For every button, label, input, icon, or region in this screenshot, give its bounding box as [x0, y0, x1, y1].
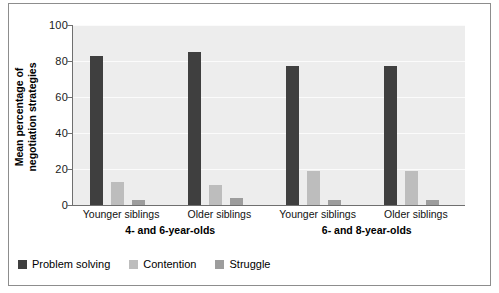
y-tick-label: 0	[42, 199, 68, 211]
x-group-label: 4- and 6-year-olds	[72, 224, 269, 236]
legend-item[interactable]: Contention	[129, 258, 196, 270]
y-axis-label-line1: Mean percentage of	[13, 68, 25, 167]
y-axis-label: Mean percentage of negotiation strategie…	[10, 28, 40, 206]
bar-problem	[188, 52, 201, 205]
chart-legend: Problem solvingContentionStruggle	[18, 258, 270, 270]
bar-group	[170, 25, 268, 205]
legend-swatch-icon	[129, 260, 138, 269]
x-tick-label: Younger siblings	[72, 208, 170, 220]
legend-swatch-icon	[18, 260, 27, 269]
y-tick-label: 100	[42, 19, 68, 31]
bar-problem	[384, 66, 397, 205]
x-group-label: 6- and 8-year-olds	[269, 224, 466, 236]
bar-chart-figure: Mean percentage of negotiation strategie…	[0, 0, 499, 293]
legend-item[interactable]: Problem solving	[18, 258, 110, 270]
legend-label: Problem solving	[32, 258, 110, 270]
y-tick-label: 80	[42, 55, 68, 67]
y-tick-mark	[66, 133, 72, 134]
y-tick-label: 40	[42, 127, 68, 139]
y-tick-mark	[66, 61, 72, 62]
legend-item[interactable]: Struggle	[215, 258, 270, 270]
bar-group	[367, 25, 465, 205]
y-axis-label-line2: negotiation strategies	[25, 62, 38, 171]
bar-group	[72, 25, 170, 205]
x-tick-label: Younger siblings	[269, 208, 367, 220]
x-tick-label: Older siblings	[367, 208, 465, 220]
y-axis-tick-labels: 020406080100	[38, 0, 68, 293]
plot-area	[72, 25, 465, 205]
y-tick-mark	[66, 25, 72, 26]
y-tick-label: 60	[42, 91, 68, 103]
bar-contention	[307, 171, 320, 205]
bar-contention	[405, 171, 418, 205]
legend-swatch-icon	[215, 260, 224, 269]
bar-contention	[209, 185, 222, 205]
x-axis-line	[72, 205, 465, 206]
bar-problem	[90, 56, 103, 205]
y-tick-mark	[66, 97, 72, 98]
y-tick-label: 20	[42, 163, 68, 175]
legend-label: Struggle	[229, 258, 270, 270]
bar-problem	[286, 66, 299, 205]
y-tick-mark	[66, 205, 72, 206]
bar-group	[269, 25, 367, 205]
y-tick-mark	[66, 169, 72, 170]
bar-contention	[111, 182, 124, 205]
y-axis-line	[72, 25, 73, 205]
legend-label: Contention	[143, 258, 196, 270]
x-tick-label: Older siblings	[170, 208, 268, 220]
bar-struggle	[230, 198, 243, 205]
